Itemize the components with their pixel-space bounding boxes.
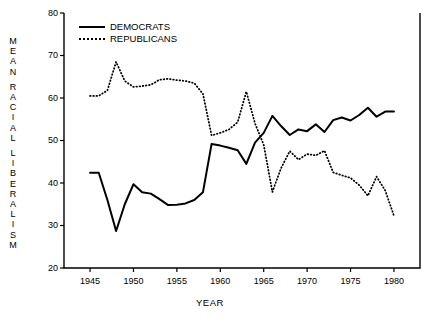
legend-line-dotted-icon bbox=[79, 34, 105, 44]
axes bbox=[60, 13, 420, 272]
y-axis-title-letter: R bbox=[6, 82, 20, 92]
y-tick-label: 70 bbox=[36, 51, 58, 60]
y-axis-title-letter: B bbox=[6, 168, 20, 178]
y-axis-title-letter: S bbox=[6, 230, 20, 240]
x-tick-label: 1975 bbox=[339, 277, 363, 286]
x-tick-label: 1965 bbox=[252, 277, 276, 286]
legend-item-republicans: REPUBLICANS bbox=[79, 33, 177, 45]
y-axis-title-letter: A bbox=[6, 92, 20, 102]
y-axis-title-letter: A bbox=[6, 199, 20, 209]
y-axis-title-letter: E bbox=[6, 46, 20, 56]
legend-line-solid-icon bbox=[79, 22, 105, 32]
y-axis-title-letter: L bbox=[6, 148, 20, 158]
y-tick-label: 60 bbox=[36, 94, 58, 103]
chart-container: 20304050607080 1945195019551960196519701… bbox=[0, 0, 431, 319]
y-axis-title-letter: C bbox=[6, 102, 20, 112]
y-axis-title-letter: R bbox=[6, 189, 20, 199]
legend-label-democrats: DEMOCRATS bbox=[110, 21, 170, 33]
series-line-democrats bbox=[90, 108, 394, 231]
y-tick-label: 80 bbox=[36, 9, 58, 18]
x-tick-label: 1950 bbox=[121, 277, 145, 286]
y-tick-label: 20 bbox=[36, 264, 58, 273]
x-tick-label: 1970 bbox=[295, 277, 319, 286]
y-axis-title-letter: A bbox=[6, 123, 20, 133]
data-series-group bbox=[90, 62, 394, 231]
series-line-republicans bbox=[90, 62, 394, 216]
y-axis-title-letter: L bbox=[6, 133, 20, 143]
y-axis-title-letter: M bbox=[6, 36, 20, 46]
x-tick-label: 1955 bbox=[165, 277, 189, 286]
y-tick-label: 30 bbox=[36, 221, 58, 230]
y-axis-title-letter: A bbox=[6, 56, 20, 66]
legend-label-republicans: REPUBLICANS bbox=[110, 33, 177, 45]
y-axis-title-letter: I bbox=[6, 158, 20, 168]
x-tick-label: 1945 bbox=[78, 277, 102, 286]
x-axis-title: YEAR bbox=[196, 297, 224, 308]
y-axis-title-letter: I bbox=[6, 219, 20, 229]
y-tick-label: 40 bbox=[36, 179, 58, 188]
y-axis-title: MEANRACIALLIBERALISM bbox=[6, 36, 20, 250]
chart-plot-area bbox=[0, 0, 431, 319]
y-axis-title-letter: N bbox=[6, 67, 20, 77]
y-axis-title-letter: E bbox=[6, 179, 20, 189]
y-axis-title-letter: I bbox=[6, 112, 20, 122]
x-tick-label: 1960 bbox=[208, 277, 232, 286]
legend-item-democrats: DEMOCRATS bbox=[79, 21, 177, 33]
y-tick-label: 50 bbox=[36, 136, 58, 145]
chart-legend: DEMOCRATS REPUBLICANS bbox=[79, 21, 177, 45]
y-axis-title-letter: M bbox=[6, 240, 20, 250]
x-tick-label: 1980 bbox=[382, 277, 406, 286]
y-axis-title-letter: L bbox=[6, 209, 20, 219]
